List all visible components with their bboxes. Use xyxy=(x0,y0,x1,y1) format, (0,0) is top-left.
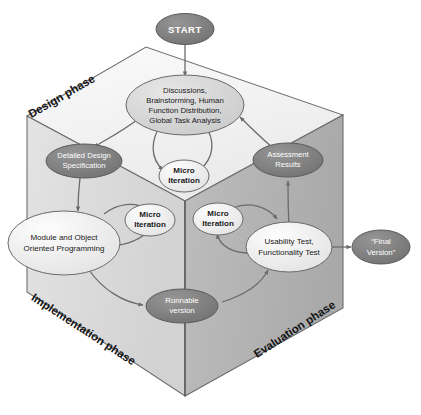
node-discussions-label-2: Brainstorming, Human xyxy=(146,96,224,105)
node-final-version-label: “Final xyxy=(371,237,391,246)
node-usability-test-label-2: Functionality Test xyxy=(258,248,320,257)
diagram-canvas: Design phase Implementation phase Evalua… xyxy=(0,0,421,415)
node-discussions-label-3: Function Distribution, xyxy=(148,106,221,115)
node-start-label: START xyxy=(168,24,202,35)
node-final-version[interactable]: “Final Version” xyxy=(352,230,410,264)
node-start[interactable]: START xyxy=(156,14,214,45)
node-discussions-label: Discussions, xyxy=(163,86,207,95)
node-micro-iteration-evaluation-label: Micro xyxy=(207,209,228,218)
node-module-programming-label-2: Oriented Programming xyxy=(24,244,105,253)
node-assessment-results-label: Assessment xyxy=(267,150,309,159)
node-detailed-design[interactable]: Detailed Design Specification xyxy=(46,144,122,178)
node-runnable-version-label: Runnable xyxy=(165,296,198,305)
node-micro-iteration-implementation[interactable]: Micro Iteration xyxy=(125,204,175,236)
node-micro-iteration-evaluation[interactable]: Micro Iteration xyxy=(193,203,243,235)
process-diagram: Design phase Implementation phase Evalua… xyxy=(0,0,421,415)
node-detailed-design-label: Detailed Design xyxy=(57,151,111,160)
node-module-programming[interactable]: Module and Object Oriented Programming xyxy=(8,211,120,275)
node-assessment-results[interactable]: Assessment Results xyxy=(253,143,323,177)
node-usability-test[interactable]: Usability Test, Functionality Test xyxy=(246,222,332,272)
node-module-programming-shape[interactable] xyxy=(8,211,120,275)
node-usability-test-shape[interactable] xyxy=(246,222,332,272)
node-discussions-label-4: Global Task Analysis xyxy=(149,116,220,125)
node-detailed-design-label-2: Specification xyxy=(62,161,105,170)
node-micro-iteration-design[interactable]: Micro Iteration xyxy=(159,160,209,192)
node-final-version-label-2: Version” xyxy=(367,248,396,257)
node-runnable-version[interactable]: Runnable version xyxy=(146,289,218,323)
node-runnable-version-label-2: version xyxy=(169,306,194,315)
node-micro-iteration-evaluation-label-2: Iteration xyxy=(202,219,234,228)
node-assessment-results-label-2: Results xyxy=(275,160,301,169)
node-final-version-shape[interactable] xyxy=(352,230,410,264)
node-usability-test-label: Usability Test, xyxy=(264,237,313,246)
node-module-programming-label: Module and Object xyxy=(30,233,98,242)
node-micro-iteration-design-label: Micro xyxy=(173,166,194,175)
node-discussions[interactable]: Discussions, Brainstorming, Human Functi… xyxy=(126,75,244,135)
node-micro-iteration-design-label-2: Iteration xyxy=(168,176,200,185)
node-micro-iteration-implementation-label-2: Iteration xyxy=(134,220,166,229)
node-micro-iteration-implementation-label: Micro xyxy=(139,210,160,219)
